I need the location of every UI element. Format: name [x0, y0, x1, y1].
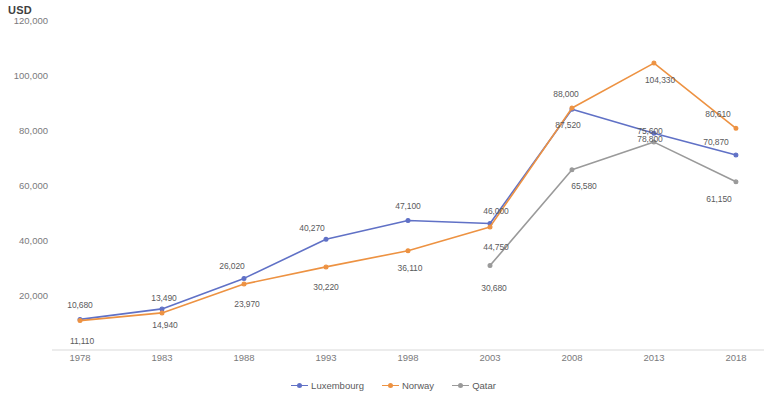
data-label: 13,490 [151, 293, 176, 303]
data-label: 87,520 [555, 120, 580, 130]
data-label: 30,680 [481, 283, 506, 293]
x-axis-tick-label: 2013 [643, 352, 664, 363]
legend-item-luxembourg[interactable]: Luxembourg [291, 380, 364, 391]
data-point-norway [78, 319, 82, 323]
data-point-luxembourg [242, 277, 246, 281]
chart-legend: LuxembourgNorwayQatar [0, 376, 777, 394]
legend-label: Luxembourg [311, 380, 364, 391]
data-point-qatar [488, 264, 492, 268]
data-point-norway [734, 126, 738, 130]
data-label: 70,870 [703, 137, 728, 147]
y-axis-tick-label: 100,000 [4, 70, 48, 81]
data-point-qatar [734, 180, 738, 184]
line-chart: USD 120,000100,00080,00060,00040,00020,0… [0, 0, 777, 396]
data-label: 26,020 [219, 261, 244, 271]
data-point-luxembourg [160, 307, 164, 311]
data-label: 36,110 [398, 263, 423, 273]
data-point-norway [242, 282, 246, 286]
data-label: 23,970 [234, 299, 259, 309]
data-point-qatar [570, 168, 574, 172]
data-label: 14,940 [152, 320, 177, 330]
data-label: 30,220 [313, 282, 338, 292]
y-axis: 120,000100,00080,00060,00040,00020,000 [0, 0, 48, 396]
data-point-luxembourg [324, 237, 328, 241]
x-axis-tick-label: 1993 [315, 352, 336, 363]
y-axis-tick-label: 120,000 [4, 15, 48, 26]
x-axis-tick-label: 1998 [397, 352, 418, 363]
data-label: 88,000 [553, 89, 578, 99]
data-label: 44,750 [483, 242, 508, 252]
data-point-norway [488, 225, 492, 229]
data-label: 11,110 [70, 336, 94, 346]
x-axis: 197819831988199319982003200820132018 [52, 352, 764, 374]
series-line-norway [80, 63, 736, 321]
legend-swatch-icon [382, 381, 399, 390]
data-point-norway [406, 249, 410, 253]
data-label: 46,000 [483, 206, 508, 216]
data-point-norway [324, 265, 328, 269]
data-point-luxembourg [406, 219, 410, 223]
data-label: 61,150 [706, 194, 731, 204]
data-label: 40,270 [299, 223, 324, 233]
data-label: 80,610 [705, 109, 730, 119]
legend-label: Qatar [472, 380, 496, 391]
data-label: 65,580 [571, 181, 596, 191]
data-label: 10,680 [67, 300, 92, 310]
x-axis-tick-label: 2008 [561, 352, 582, 363]
legend-label: Norway [402, 380, 434, 391]
legend-item-norway[interactable]: Norway [382, 380, 434, 391]
legend-swatch-icon [452, 381, 469, 390]
data-label: 47,100 [395, 201, 420, 211]
y-axis-tick-label: 60,000 [4, 180, 48, 191]
x-axis-tick-label: 1988 [233, 352, 254, 363]
legend-swatch-icon [291, 381, 308, 390]
y-axis-tick-label: 20,000 [4, 290, 48, 301]
data-point-norway [652, 61, 656, 65]
data-point-norway [160, 311, 164, 315]
data-label: 104,330 [645, 75, 675, 85]
x-axis-tick-label: 2018 [725, 352, 746, 363]
legend-item-qatar[interactable]: Qatar [452, 380, 496, 391]
x-axis-tick-label: 1978 [69, 352, 90, 363]
y-axis-tick-label: 40,000 [4, 235, 48, 246]
plot-area: 10,68011,11013,49014,94026,02023,97040,2… [52, 20, 764, 350]
y-axis-tick-label: 80,000 [4, 125, 48, 136]
series-line-qatar [490, 142, 736, 266]
data-point-luxembourg [734, 153, 738, 157]
data-point-norway [570, 106, 574, 110]
x-axis-tick-label: 2003 [479, 352, 500, 363]
x-axis-tick-label: 1983 [151, 352, 172, 363]
data-label: 78,800 [637, 134, 662, 144]
